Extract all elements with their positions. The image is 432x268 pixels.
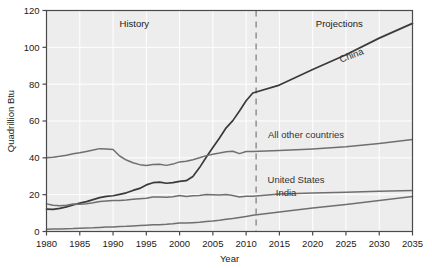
y-tick-label: 80: [29, 79, 40, 90]
x-tick-label: 1990: [102, 238, 123, 249]
x-tick-label: 2035: [402, 238, 423, 249]
energy-consumption-line-chart: 0204060801001201980198519901995200020052…: [0, 0, 432, 268]
y-axis-title: Quadrillion Btu: [5, 90, 16, 152]
y-tick-label: 20: [29, 189, 40, 200]
y-tick-label: 100: [24, 42, 40, 53]
x-tick-label: 1985: [69, 238, 90, 249]
y-tick-label: 0: [34, 226, 39, 237]
x-tick-label: 1995: [136, 238, 157, 249]
x-axis: 1980198519901995200020052010201520202025…: [36, 232, 423, 249]
x-tick-label: 2000: [169, 238, 190, 249]
x-axis-title: Year: [220, 253, 239, 264]
y-tick-label: 60: [29, 115, 40, 126]
x-tick-label: 2005: [202, 238, 223, 249]
chart-figure: 0204060801001201980198519901995200020052…: [0, 0, 432, 268]
x-tick-label: 2020: [302, 238, 323, 249]
x-tick-label: 2025: [335, 238, 356, 249]
series-label-united-states: United States: [268, 174, 325, 185]
x-tick-label: 2015: [269, 238, 290, 249]
x-tick-label: 2010: [236, 238, 257, 249]
annotation-projections: Projections: [316, 18, 363, 29]
y-tick-label: 120: [24, 5, 40, 16]
x-tick-label: 2030: [369, 238, 390, 249]
x-tick-label: 1980: [36, 238, 57, 249]
y-tick-label: 40: [29, 152, 40, 163]
series-label-all-other-countries: All other countries: [268, 129, 344, 140]
annotation-history: History: [120, 18, 150, 29]
y-axis: 020406080100120: [24, 5, 47, 237]
series-label-india: India: [276, 187, 297, 198]
